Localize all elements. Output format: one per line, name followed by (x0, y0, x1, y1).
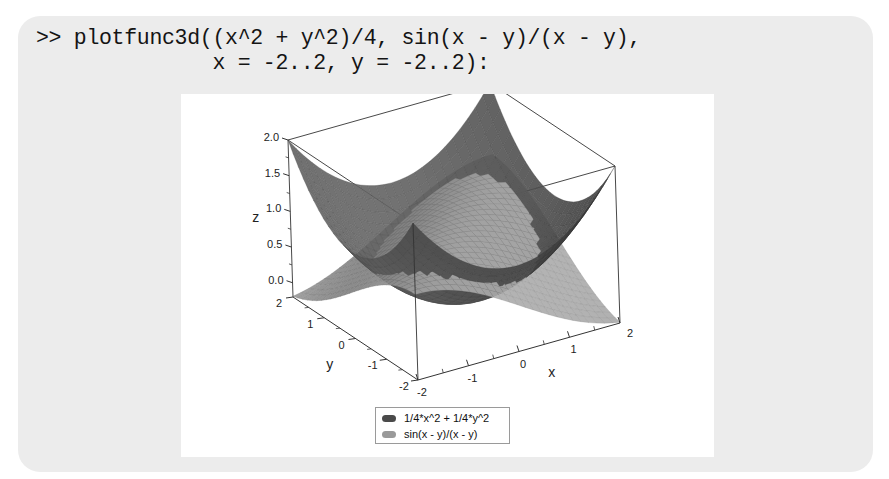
y-minor-tick (336, 328, 340, 329)
y-tick (317, 318, 324, 319)
x-tick (517, 346, 519, 352)
legend-swatch-surface1 (382, 415, 396, 422)
surface-paraboloid-patch (594, 180, 606, 198)
legend: 1/4*x^2 + 1/4*y^2 sin(x - y)/(x - y) (375, 407, 510, 444)
legend-swatch-surface2 (382, 431, 396, 438)
x-tick (568, 331, 570, 337)
x-tick-label: 0 (520, 358, 526, 370)
x-tick-label: -1 (468, 372, 478, 384)
z-tick-label: 0.5 (267, 238, 282, 250)
z-tick (287, 281, 293, 283)
z-tick-label: 1.0 (266, 202, 281, 214)
z-tick (283, 174, 289, 176)
surface-paraboloid-patch (590, 186, 602, 204)
y-tick-label: 1 (307, 318, 313, 330)
plot-output[interactable]: 0.00.51.01.52.0z-2-1012y-2-1012x (181, 94, 714, 457)
x-tick-label: -2 (417, 386, 427, 398)
command-line-1: >> plotfunc3d((x^2 + y^2)/4, sin(x - y)/… (36, 26, 641, 50)
surfaces (288, 94, 620, 323)
z-tick-label: 1.5 (265, 167, 280, 179)
x-axis-label: x (548, 364, 555, 380)
z-tick (284, 209, 290, 211)
x-tick-label: 2 (627, 327, 633, 339)
x-minor-tick (594, 326, 595, 330)
x-minor-tick (543, 340, 544, 344)
y-tick-label: 0 (338, 339, 344, 351)
z-tick-label: 0.0 (268, 274, 283, 286)
x-minor-tick (442, 369, 443, 373)
y-axis-label: y (326, 356, 333, 372)
y-tick-label: 2 (276, 297, 282, 309)
y-tick (380, 359, 387, 360)
x-tick-label: 1 (570, 343, 576, 355)
z-tick-label: 2.0 (264, 131, 279, 143)
box-edge-left-vertical (288, 140, 293, 297)
z-tick (285, 245, 291, 247)
surface-paraboloid-patch (288, 140, 301, 162)
y-minor-tick (398, 370, 402, 371)
legend-label: 1/4*x^2 + 1/4*y^2 (404, 412, 489, 424)
legend-item: sin(x - y)/(x - y) (376, 426, 509, 442)
y-tick-label: -2 (399, 380, 409, 392)
command-line-2: x = -2..2, y = -2..2): (36, 51, 490, 75)
x-minor-tick (493, 355, 494, 359)
y-tick-label: -1 (368, 359, 378, 371)
y-tick (286, 297, 293, 298)
y-minor-tick (305, 307, 309, 308)
y-minor-tick (367, 349, 371, 350)
z-tick (282, 138, 288, 140)
surface-plot-3d: 0.00.51.01.52.0z-2-1012y-2-1012x (181, 94, 714, 457)
y-tick (411, 380, 418, 381)
legend-label: sin(x - y)/(x - y) (404, 428, 477, 440)
box-edge-right-vertical (615, 166, 620, 323)
z-axis-label: z (252, 209, 259, 225)
x-tick (467, 360, 469, 366)
y-tick (349, 339, 356, 340)
legend-item: 1/4*x^2 + 1/4*y^2 (376, 410, 509, 426)
command-input[interactable]: >> plotfunc3d((x^2 + y^2)/4, sin(x - y)/… (36, 26, 641, 76)
